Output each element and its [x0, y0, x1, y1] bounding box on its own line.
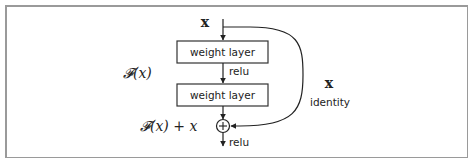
sum-node: [217, 120, 230, 133]
relu-output-label: relu: [229, 136, 249, 148]
weight-layer-1: weight layer: [177, 41, 268, 63]
weight-layer-2: weight layer: [177, 84, 268, 106]
input-x-label: x: [201, 14, 210, 30]
sum-output-label: 𝓕(x) + x: [140, 118, 197, 134]
weight-layer-1-label: weight layer: [190, 46, 256, 58]
identity-x-label: x: [325, 75, 334, 91]
weight-layer-2-label: weight layer: [190, 89, 256, 101]
identity-label: identity: [310, 96, 350, 108]
residual-block-diagram: x weight layer relu 𝓕(x) weight layer 𝓕(…: [0, 0, 475, 165]
residual-function-label: 𝓕(x): [123, 65, 152, 81]
relu-mid-label: relu: [229, 65, 249, 77]
